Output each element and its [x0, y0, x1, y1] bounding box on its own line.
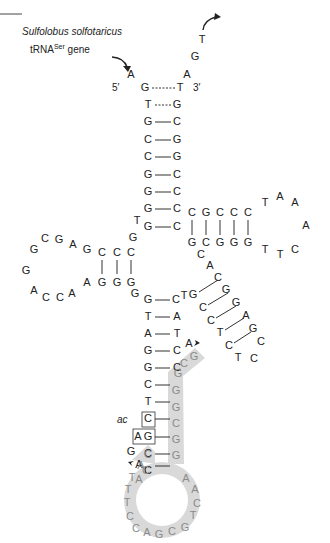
highlighted-nucleotide: C [125, 511, 135, 522]
gene-prefix: tRNA [30, 44, 54, 55]
gene-label: tRNASer gene [30, 41, 90, 56]
ac-annotation: ac [117, 414, 128, 426]
nucleotide: G [29, 244, 39, 255]
nucleotide: G [143, 221, 153, 232]
nucleotide: A [275, 191, 285, 202]
highlighted-nucleotide: G [171, 450, 181, 461]
highlighted-nucleotide: A [142, 527, 152, 538]
nucleotide: T [172, 328, 182, 339]
nucleotide: C [198, 302, 208, 313]
nucleotide: C [243, 207, 253, 218]
structure-graphics [0, 0, 330, 543]
nucleotide: T [233, 352, 243, 363]
nucleotide: A [82, 277, 92, 288]
highlighted-nucleotide: A [181, 473, 191, 484]
nucleotide: C [172, 186, 182, 197]
nucleotide: A [301, 220, 311, 231]
nucleotide: T [175, 82, 185, 93]
nucleotide: C [172, 169, 182, 180]
nucleotide: A [29, 285, 39, 296]
nucleotide: T [197, 34, 207, 45]
highlighted-nucleotide: G [189, 351, 199, 362]
nucleotide: C [249, 353, 259, 364]
nucleotide: A [133, 431, 143, 442]
highlighted-nucleotide: T [188, 510, 198, 521]
nucleotide: C [143, 134, 153, 145]
highlighted-nucleotide: T [123, 484, 133, 495]
nucleotide: A [184, 338, 194, 349]
nucleotide: A [205, 260, 215, 271]
t-stem-bonds [192, 220, 248, 235]
nucleotide: T [275, 249, 285, 260]
nucleotide: G [172, 99, 182, 110]
nucleotide: C [290, 244, 300, 255]
nucleotide: C [55, 292, 65, 303]
nucleotide: C [143, 413, 153, 424]
nucleotide: A [290, 197, 300, 208]
highlighted-nucleotide: G [171, 434, 181, 445]
nucleotide: G [143, 362, 153, 373]
nucleotide: G [112, 277, 122, 288]
highlighted-nucleotide: C [171, 418, 181, 429]
highlighted-nucleotide: G [173, 368, 183, 379]
nucleotide: G [231, 297, 241, 308]
nucleotide: G [172, 151, 182, 162]
highlighted-nucleotide: G [171, 402, 181, 413]
highlighted-nucleotide: C [192, 498, 202, 509]
nucleotide: G [128, 232, 138, 243]
nucleotide: C [143, 379, 153, 390]
nucleotide: G [54, 234, 64, 245]
nucleotide: A [126, 69, 136, 80]
nucleotide: A [172, 311, 182, 322]
nucleotide: G [201, 207, 211, 218]
highlighted-nucleotide: A [190, 484, 200, 495]
nucleotide: C [206, 315, 216, 326]
nucleotide: A [182, 69, 192, 80]
highlighted-nucleotide: G [154, 529, 164, 540]
five-prime-label: 5′ [112, 82, 119, 94]
nucleotide: G [97, 277, 107, 288]
three-prime-label: 3′ [193, 82, 200, 94]
nucleotide: A [143, 328, 153, 339]
nucleotide: T [215, 327, 225, 338]
nucleotide: A [241, 310, 251, 321]
nucleotide: G [143, 294, 153, 305]
nucleotide: T [143, 311, 153, 322]
nucleotide: C [196, 249, 206, 260]
nucleotide: C [224, 340, 234, 351]
nucleotide: A [68, 239, 78, 250]
nucleotide: T [179, 290, 189, 301]
nucleotide: G [143, 186, 153, 197]
highlighted-nucleotide: T [122, 497, 132, 508]
gene-superscript: Ser [54, 43, 65, 50]
highlighted-nucleotide: A [134, 474, 144, 485]
nucleotide: G [82, 244, 92, 255]
nucleotide: T [143, 396, 153, 407]
nucleotide: A [67, 288, 77, 299]
nucleotide: C [40, 233, 50, 244]
nucleotide: G [143, 431, 153, 442]
nucleotide: C [172, 221, 182, 232]
nucleotide: C [229, 207, 239, 218]
nucleotide: G [21, 265, 31, 276]
nucleotide: C [41, 292, 51, 303]
nucleotide: C [215, 207, 225, 218]
nucleotide: T [132, 215, 142, 226]
nucleotide: G [243, 237, 253, 248]
nucleotide: G [143, 345, 153, 356]
nucleotide: C [172, 116, 182, 127]
highlighted-nucleotide: C [167, 526, 177, 537]
nucleotide: G [229, 237, 239, 248]
nucleotide: G [143, 203, 153, 214]
highlighted-nucleotide: C [143, 449, 153, 460]
nucleotide: C [112, 247, 122, 258]
nucleotide: C [143, 151, 153, 162]
nucleotide: G [188, 289, 198, 300]
nucleotide: C [201, 237, 211, 248]
nucleotide: G [190, 51, 200, 62]
nucleotide: C [172, 203, 182, 214]
d-stem-bonds [102, 260, 131, 274]
nucleotide: T [260, 244, 270, 255]
nucleotide: C [172, 345, 182, 356]
gene-suffix: gene [65, 44, 90, 55]
